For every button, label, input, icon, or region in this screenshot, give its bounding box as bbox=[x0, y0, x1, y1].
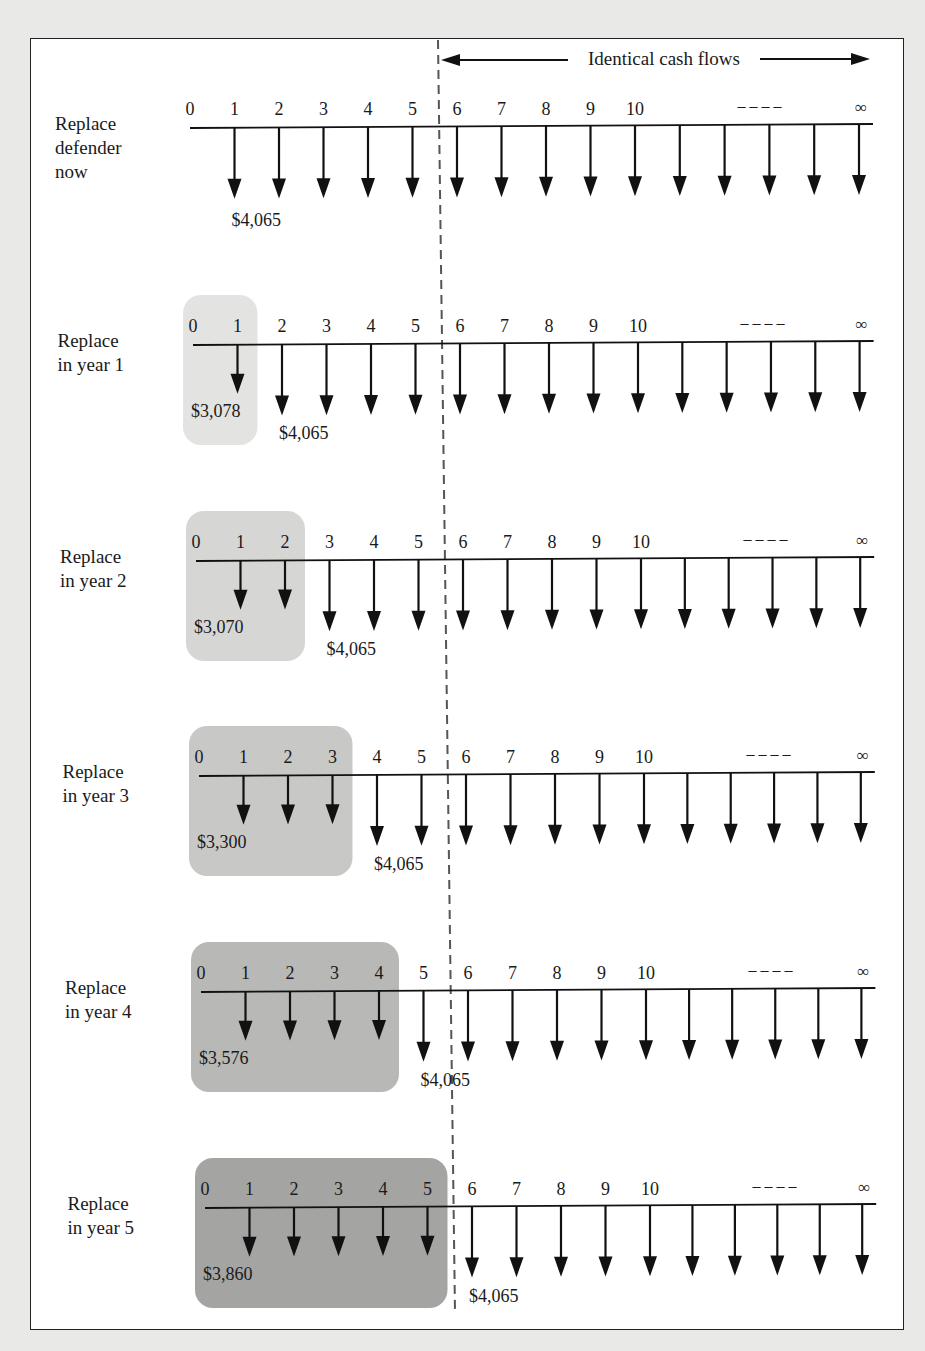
cash-outflow-arrow bbox=[767, 824, 781, 844]
timeline-row-2: 012345678910– – – –∞$3,070$4,065 bbox=[186, 511, 874, 661]
period-label: 2 bbox=[286, 963, 295, 983]
period-label: 4 bbox=[364, 99, 373, 119]
cash-outflow-arrow bbox=[539, 177, 553, 197]
cash-outflow-arrow bbox=[766, 609, 780, 629]
period-label: 0 bbox=[201, 1179, 210, 1199]
period-label: 0 bbox=[197, 963, 206, 983]
period-label: 3 bbox=[334, 1179, 343, 1199]
period-label: 10 bbox=[641, 1179, 659, 1199]
period-label: 5 bbox=[423, 1179, 432, 1199]
infinity-label: ∞ bbox=[857, 746, 869, 765]
cash-outflow-arrow bbox=[685, 1256, 699, 1276]
cash-outflow-arrow bbox=[406, 178, 420, 198]
cash-outflow-arrow bbox=[813, 1255, 827, 1275]
cash-outflow-arrow bbox=[545, 610, 559, 630]
period-label: 10 bbox=[635, 747, 653, 767]
infinity-label: ∞ bbox=[856, 531, 868, 550]
cash-outflow-arrow bbox=[323, 611, 337, 631]
cash-outflow-arrow bbox=[548, 825, 562, 845]
period-label: 10 bbox=[629, 316, 647, 336]
cash-outflow-arrow bbox=[453, 394, 467, 414]
cash-outflow-arrow bbox=[854, 823, 868, 843]
cash-outflow-arrow bbox=[461, 1041, 475, 1061]
cash-outflow-arrow bbox=[599, 1257, 613, 1277]
cash-outflow-arrow bbox=[762, 176, 776, 196]
row-label-4: Replace in year 4 bbox=[65, 976, 131, 1024]
cash-outflow-arrow bbox=[364, 395, 378, 415]
defender-cost-label: $3,300 bbox=[197, 832, 247, 852]
cash-outflow-arrow bbox=[722, 609, 736, 629]
replacement-period-box bbox=[195, 1158, 448, 1308]
period-label: 4 bbox=[370, 532, 379, 552]
cash-outflow-arrow bbox=[542, 394, 556, 414]
infinity-label: ∞ bbox=[855, 98, 867, 117]
cash-outflow-arrow bbox=[682, 1040, 696, 1060]
cash-outflow-arrow bbox=[853, 392, 867, 412]
period-label: 1 bbox=[241, 963, 250, 983]
period-label: 4 bbox=[367, 316, 376, 336]
period-label: 9 bbox=[592, 532, 601, 552]
cash-outflow-arrow bbox=[465, 1257, 479, 1277]
period-label: 10 bbox=[637, 963, 655, 983]
row-label-2: Replace in year 2 bbox=[60, 545, 126, 593]
ellipsis-label: – – – – bbox=[740, 314, 786, 331]
timeline-row-0: 012345678910– – – –∞$4,065 bbox=[186, 97, 874, 230]
period-label: 9 bbox=[589, 316, 598, 336]
period-label: 8 bbox=[551, 747, 560, 767]
challenger-cost-label: $4,065 bbox=[232, 210, 282, 230]
period-label: 1 bbox=[230, 99, 239, 119]
period-label: 8 bbox=[545, 316, 554, 336]
infinity-label: ∞ bbox=[857, 962, 869, 981]
cash-outflow-arrow bbox=[415, 826, 429, 846]
period-label: 8 bbox=[548, 532, 557, 552]
defender-cost-label: $3,078 bbox=[191, 401, 241, 421]
cash-outflow-arrow bbox=[228, 179, 242, 199]
cash-outflow-arrow bbox=[459, 825, 473, 845]
cash-outflow-arrow bbox=[631, 393, 645, 413]
cash-outflow-arrow bbox=[272, 178, 286, 198]
period-label: 5 bbox=[417, 747, 426, 767]
defender-cost-label: $3,860 bbox=[203, 1264, 253, 1284]
cash-outflow-arrow bbox=[495, 177, 509, 197]
ellipsis-label: – – – – bbox=[746, 745, 792, 762]
infinity-label: ∞ bbox=[856, 315, 868, 334]
period-label: 8 bbox=[553, 963, 562, 983]
period-label: 6 bbox=[462, 747, 471, 767]
cash-outflow-arrow bbox=[853, 608, 867, 628]
cash-outflow-arrow bbox=[320, 395, 334, 415]
cash-outflow-arrow bbox=[361, 178, 375, 198]
cash-outflow-arrow bbox=[510, 1257, 524, 1277]
timeline-row-4: 012345678910– – – –∞$3,576$4,065 bbox=[191, 942, 875, 1092]
cash-outflow-arrow bbox=[587, 394, 601, 414]
period-label: 10 bbox=[626, 99, 644, 119]
row-label-1: Replace in year 1 bbox=[58, 329, 124, 377]
period-label: 7 bbox=[512, 1179, 521, 1199]
cash-outflow-arrow bbox=[811, 1039, 825, 1059]
cash-outflow-arrow bbox=[768, 1040, 782, 1060]
cash-outflow-arrow bbox=[412, 611, 426, 631]
identical-cash-flows-label: Identical cash flows bbox=[588, 48, 740, 69]
period-label: 2 bbox=[278, 316, 287, 336]
ellipsis-label: – – – – bbox=[743, 530, 789, 547]
period-label: 6 bbox=[459, 532, 468, 552]
period-label: 3 bbox=[328, 747, 337, 767]
period-label: 4 bbox=[379, 1179, 388, 1199]
period-label: 5 bbox=[419, 963, 428, 983]
period-label: 1 bbox=[236, 532, 245, 552]
period-label: 7 bbox=[503, 532, 512, 552]
period-label: 0 bbox=[189, 316, 198, 336]
period-label: 8 bbox=[557, 1179, 566, 1199]
period-label: 3 bbox=[322, 316, 331, 336]
period-label: 3 bbox=[319, 99, 328, 119]
cash-outflow-arrow bbox=[810, 823, 824, 843]
ellipsis-label: – – – – bbox=[752, 1177, 798, 1194]
cash-outflow-arrow bbox=[498, 394, 512, 414]
period-label: 9 bbox=[586, 99, 595, 119]
period-label: 4 bbox=[375, 963, 384, 983]
cash-outflow-arrow bbox=[637, 824, 651, 844]
period-label: 9 bbox=[595, 747, 604, 767]
cash-outflow-arrow bbox=[450, 177, 464, 197]
period-label: 5 bbox=[411, 316, 420, 336]
timeline-row-3: 012345678910– – – –∞$3,300$4,065 bbox=[189, 726, 875, 876]
period-label: 0 bbox=[186, 99, 195, 119]
